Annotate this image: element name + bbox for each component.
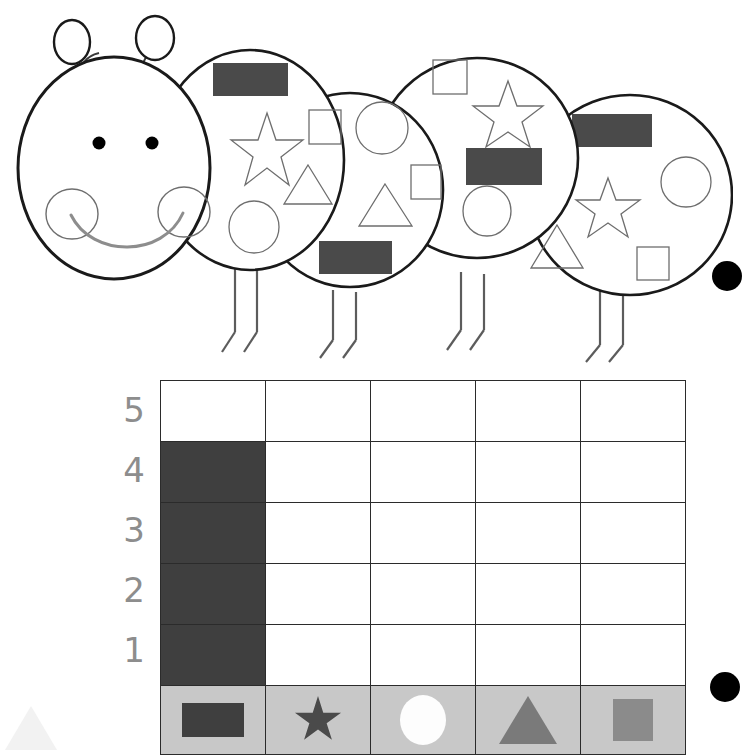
cell-rectangle-3[interactable] <box>161 503 266 564</box>
legend-cell-star <box>266 686 371 755</box>
segment2-filled-rectangle <box>319 241 392 274</box>
cell-square-1[interactable] <box>581 625 686 686</box>
cell-circle-3[interactable] <box>371 503 476 564</box>
graph-row-3 <box>161 503 686 564</box>
graph-row-2 <box>161 564 686 625</box>
cell-square-2[interactable] <box>581 564 686 625</box>
cell-circle-5[interactable] <box>371 381 476 442</box>
graph-grid <box>160 380 686 755</box>
triangle-swatch-icon <box>499 696 557 744</box>
cell-star-2[interactable] <box>266 564 371 625</box>
cell-triangle-3[interactable] <box>476 503 581 564</box>
y-tick-1: 1 <box>112 620 156 680</box>
segment1-filled-rectangle <box>213 63 288 96</box>
cell-triangle-2[interactable] <box>476 564 581 625</box>
bar-graph <box>160 380 680 748</box>
star-swatch-icon <box>294 696 342 744</box>
black-dot-icon <box>712 261 742 291</box>
legend-cell-triangle <box>476 686 581 755</box>
circle-swatch-icon <box>400 695 446 745</box>
y-tick-5: 5 <box>112 380 156 440</box>
legend-cell-circle <box>371 686 476 755</box>
graph-row-1 <box>161 625 686 686</box>
cell-star-1[interactable] <box>266 625 371 686</box>
cell-square-4[interactable] <box>581 442 686 503</box>
square-swatch-icon <box>613 699 653 741</box>
antenna-right-ball <box>136 16 174 60</box>
graph-row-5 <box>161 381 686 442</box>
cell-star-4[interactable] <box>266 442 371 503</box>
graph-row-4 <box>161 442 686 503</box>
y-axis: 5 4 3 2 1 <box>112 380 156 680</box>
legend-cell-rectangle <box>161 686 266 755</box>
cell-square-3[interactable] <box>581 503 686 564</box>
cell-star-5[interactable] <box>266 381 371 442</box>
graph-legend-row <box>161 686 686 755</box>
cell-circle-1[interactable] <box>371 625 476 686</box>
cell-circle-2[interactable] <box>371 564 476 625</box>
cell-rectangle-4[interactable] <box>161 442 266 503</box>
cell-rectangle-1[interactable] <box>161 625 266 686</box>
segment3-filled-rectangle <box>466 148 542 185</box>
cell-rectangle-5[interactable] <box>161 381 266 442</box>
cell-square-5[interactable] <box>581 381 686 442</box>
rectangle-swatch-icon <box>182 703 244 737</box>
segment4-filled-rectangle <box>572 114 652 147</box>
y-tick-2: 2 <box>112 560 156 620</box>
black-dot-icon <box>710 672 740 702</box>
eye-right <box>146 137 159 150</box>
caterpillar-head <box>18 16 210 279</box>
cell-rectangle-2[interactable] <box>161 564 266 625</box>
cell-star-3[interactable] <box>266 503 371 564</box>
cell-triangle-4[interactable] <box>476 442 581 503</box>
cell-triangle-5[interactable] <box>476 381 581 442</box>
cell-triangle-1[interactable] <box>476 625 581 686</box>
eye-left <box>93 137 106 150</box>
y-tick-3: 3 <box>112 500 156 560</box>
antenna-left-ball <box>54 20 90 64</box>
y-tick-4: 4 <box>112 440 156 500</box>
legend-cell-square <box>581 686 686 755</box>
cell-circle-4[interactable] <box>371 442 476 503</box>
